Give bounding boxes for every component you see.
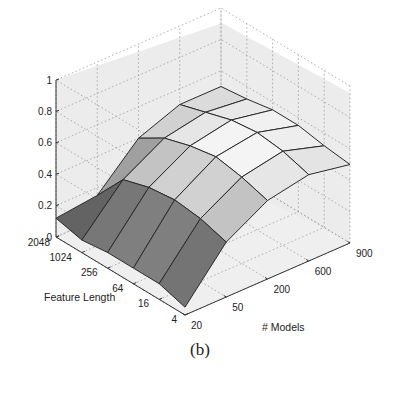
feature-length-tick-label: 16	[138, 298, 150, 309]
z-tick-label: 0.4	[38, 169, 52, 180]
models-axis-label: # Models	[262, 321, 305, 333]
feature-length-tick-label: 4	[171, 314, 177, 325]
z-tick-label: 0.2	[38, 200, 52, 211]
surface-plot: 00.20.40.60.81 4166425610242048 20502006…	[0, 0, 400, 396]
z-tick-label: 0.8	[38, 106, 52, 117]
feature-length-axis-label: Feature Length	[44, 291, 115, 303]
models-tick-label: 20	[191, 320, 203, 331]
models-tick-label: 900	[356, 248, 373, 259]
models-tick-label: 50	[232, 302, 244, 313]
figure-caption: (b)	[0, 340, 400, 360]
models-tick-label: 200	[274, 284, 291, 295]
feature-length-tick-label: 1024	[50, 252, 73, 263]
models-tick-label: 600	[315, 266, 332, 277]
feature-length-tick-label: 256	[81, 267, 98, 278]
z-tick-label: 0.6	[38, 137, 52, 148]
feature-length-tick-label: 2048	[28, 237, 51, 248]
z-tick-label: 1	[46, 75, 52, 86]
